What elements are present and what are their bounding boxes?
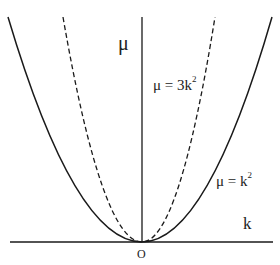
k-axis-label: k <box>243 214 252 233</box>
dispersion-diagram: μ k O μ = 3k2 μ = k2 <box>0 0 280 265</box>
dashed-curve-label: μ = 3k2 <box>153 74 197 93</box>
curve-mu-k2 <box>8 17 272 242</box>
dashed-curve-exponent: 2 <box>192 74 197 84</box>
solid-curve-label: μ = k2 <box>216 170 252 189</box>
solid-curve-exponent: 2 <box>248 170 253 180</box>
mu-axis-label: μ <box>118 32 129 55</box>
origin-label: O <box>137 247 146 261</box>
